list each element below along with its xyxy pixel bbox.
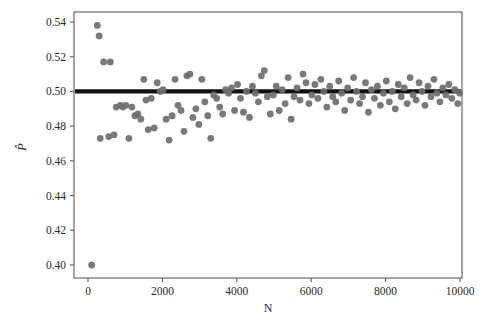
data-point: [195, 121, 202, 128]
y-tick-label: 0.46: [46, 155, 66, 167]
data-point: [362, 79, 369, 86]
data-point: [395, 81, 402, 88]
data-point: [237, 95, 244, 102]
y-tick-label: 0.48: [46, 120, 66, 132]
data-point: [368, 86, 375, 93]
data-point: [445, 81, 452, 88]
data-point: [291, 93, 298, 100]
data-point: [231, 107, 238, 114]
scatter-plot: 0.400.420.440.460.480.500.520.54 0200040…: [0, 0, 481, 335]
data-point: [192, 105, 199, 112]
data-point: [309, 92, 316, 99]
x-tick-label: 8000: [374, 285, 397, 297]
data-point: [428, 93, 435, 100]
data-point: [344, 85, 351, 92]
data-point: [434, 90, 441, 97]
data-point: [178, 107, 185, 114]
data-point: [148, 95, 155, 102]
y-tick-label: 0.50: [46, 85, 66, 97]
data-point: [365, 109, 372, 116]
data-point: [442, 92, 449, 99]
data-point: [419, 88, 426, 95]
data-point: [332, 98, 339, 105]
data-point: [279, 86, 286, 93]
data-point: [380, 90, 387, 97]
data-point: [111, 131, 118, 138]
data-point: [377, 102, 384, 109]
data-point: [389, 88, 396, 95]
data-point: [213, 95, 220, 102]
data-point: [100, 59, 107, 66]
data-point: [312, 81, 319, 88]
data-point: [359, 93, 366, 100]
data-point: [129, 104, 136, 111]
data-point: [151, 124, 158, 131]
data-point: [437, 98, 444, 105]
data-point: [282, 100, 289, 107]
figure-container: 0.400.420.440.460.480.500.520.54 0200040…: [0, 0, 481, 335]
data-point: [88, 262, 95, 269]
data-point: [285, 74, 292, 81]
data-point: [392, 105, 399, 112]
data-point: [401, 85, 408, 92]
data-point: [166, 137, 173, 144]
y-tick-label: 0.52: [46, 51, 66, 63]
data-point: [404, 100, 411, 107]
data-point: [306, 100, 313, 107]
data-point: [243, 88, 250, 95]
data-point: [353, 88, 360, 95]
data-point: [140, 76, 147, 83]
data-point: [407, 74, 414, 81]
data-point: [198, 76, 205, 83]
y-axis-title-group: P̂: [14, 143, 29, 152]
data-point: [255, 98, 262, 105]
data-point: [261, 67, 268, 74]
data-point: [163, 116, 170, 123]
data-point: [249, 83, 256, 90]
data-point: [374, 83, 381, 90]
data-point: [341, 107, 348, 114]
data-point: [97, 135, 104, 142]
data-point: [219, 111, 226, 118]
data-point: [422, 102, 429, 109]
data-point: [323, 104, 330, 111]
data-point: [107, 59, 114, 66]
x-axis-title: N: [264, 301, 273, 315]
data-point: [288, 116, 295, 123]
data-point: [94, 22, 101, 29]
data-point: [335, 78, 342, 85]
data-point: [439, 85, 446, 92]
y-tick-label: 0.54: [46, 16, 66, 28]
data-point: [276, 107, 283, 114]
data-point: [123, 102, 130, 109]
data-point: [160, 86, 167, 93]
data-point: [383, 78, 390, 85]
x-tick-label: 10000: [446, 285, 475, 297]
data-point: [216, 104, 223, 111]
data-point: [126, 135, 133, 142]
data-point: [300, 71, 307, 78]
data-point: [181, 128, 188, 135]
data-point: [413, 97, 420, 104]
data-point: [264, 93, 271, 100]
data-point: [267, 111, 274, 118]
data-point: [431, 76, 438, 83]
data-point: [169, 112, 176, 119]
data-point: [297, 97, 304, 104]
data-point: [137, 116, 144, 123]
data-point: [317, 76, 324, 83]
data-point: [172, 76, 179, 83]
data-point: [386, 98, 393, 105]
data-point: [356, 100, 363, 107]
data-point: [228, 85, 235, 92]
y-axis-title: P̂: [14, 143, 29, 152]
data-point: [273, 83, 280, 90]
data-point: [350, 74, 357, 81]
data-point: [187, 71, 194, 78]
data-point: [246, 114, 253, 121]
data-point: [347, 97, 354, 104]
data-point: [303, 79, 310, 86]
data-point: [207, 135, 214, 142]
data-point: [294, 85, 301, 92]
data-point: [416, 79, 423, 86]
